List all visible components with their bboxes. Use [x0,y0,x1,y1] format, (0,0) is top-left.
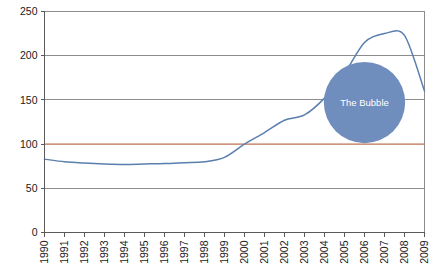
x-tick-label-1997: 1997 [178,240,190,264]
chart-container: The Bubble 050100150200250 1990199119921… [0,0,448,271]
x-tick-label-2004: 2004 [318,240,330,264]
x-tick-label-2002: 2002 [278,240,290,264]
bubble-annotation-group: The Bubble [324,62,405,143]
bubble-label: The Bubble [340,97,389,108]
line-chart: The Bubble 050100150200250 1990199119921… [0,0,448,271]
x-tick-label-1991: 1991 [58,240,70,264]
x-tick-label-2003: 2003 [298,240,310,264]
y-tick-label-50: 50 [26,182,38,194]
y-tick-label-250: 250 [20,5,38,17]
x-tick-label-1994: 1994 [118,240,130,264]
y-tick-label-0: 0 [32,226,38,238]
y-tick-label-150: 150 [20,94,38,106]
x-tick-label-1990: 1990 [38,240,50,264]
x-tick-label-1995: 1995 [138,240,150,264]
x-tick-label-2006: 2006 [358,240,370,264]
x-tick-label-2001: 2001 [258,240,270,264]
x-tick-label-2009: 2009 [418,240,430,264]
y-tick-label-200: 200 [20,49,38,61]
x-tick-label-1999: 1999 [218,240,230,264]
x-tick-label-1992: 1992 [78,240,90,264]
x-tick-label-1993: 1993 [98,240,110,264]
x-tick-label-1998: 1998 [198,240,210,264]
x-tick-label-2005: 2005 [338,240,350,264]
x-tick-label-2007: 2007 [378,240,390,264]
x-tick-label-2000: 2000 [238,240,250,264]
x-tick-label-1996: 1996 [158,240,170,264]
x-tick-label-2008: 2008 [398,240,410,264]
y-tick-label-100: 100 [20,138,38,150]
